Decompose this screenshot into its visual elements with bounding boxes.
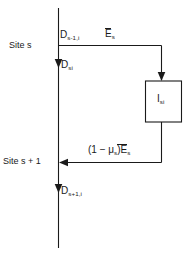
diagram-canvas: Site s Site s + 1 Ds-1,i Es Dsi (1 − μs)…: [0, 0, 190, 257]
overbar-group-return: )E: [117, 145, 127, 155]
arrowhead-box-inlet: [158, 72, 166, 81]
arrowheads: [55, 59, 166, 193]
process-box-label: Isi: [157, 94, 164, 104]
arrowhead-return: [59, 159, 68, 166]
node-label-site-s-plus-1: Site s + 1: [3, 157, 41, 166]
diagram-linework: [0, 0, 190, 257]
flow-label-outflow: Ds+1,i: [61, 186, 82, 196]
flow-label-return-branch: (1 − μs)Es: [88, 145, 130, 155]
flow-label-inflow: Ds-1,i: [60, 30, 79, 40]
overbar-group: E: [105, 29, 112, 39]
flow-label-top-branch: Es: [105, 29, 115, 39]
flow-label-site-s-out: Dsi: [61, 60, 73, 70]
node-label-site-s: Site s: [9, 41, 32, 50]
